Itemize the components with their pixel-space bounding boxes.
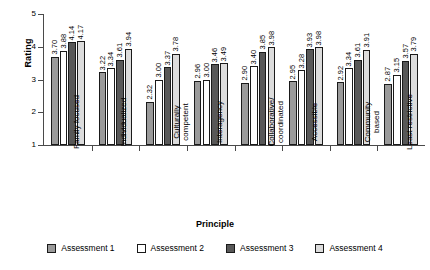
- bar-value-label: 3.49: [219, 47, 227, 62]
- bar-value-label: 3.61: [354, 43, 362, 58]
- bar-value-label: 3.94: [124, 32, 132, 47]
- bar-value-label: 3.85: [258, 35, 266, 50]
- legend-label: Assessment 4: [329, 244, 382, 253]
- bar[interactable]: [384, 84, 392, 145]
- y-tick-label: 2: [24, 108, 36, 116]
- bar-group: 2.953.283.933.98: [282, 14, 330, 145]
- bar[interactable]: [337, 82, 345, 145]
- bar[interactable]: [194, 81, 202, 145]
- bar-value-label: 3.00: [202, 63, 210, 78]
- bar-value-label: 2.32: [146, 85, 154, 100]
- bar[interactable]: [289, 81, 297, 145]
- bar[interactable]: [107, 68, 115, 145]
- y-tick-mark: [38, 14, 43, 15]
- bar[interactable]: [298, 70, 306, 145]
- bar-value-label: 3.15: [393, 58, 401, 73]
- bar-value-label: 3.34: [345, 52, 353, 67]
- legend-swatch: [315, 244, 324, 253]
- y-tick-label: 3: [24, 76, 36, 84]
- bar[interactable]: [241, 83, 249, 145]
- bar-value-label: 2.87: [384, 67, 392, 82]
- bar-value-label: 3.98: [315, 31, 323, 46]
- legend-item[interactable]: Assessment 4: [315, 244, 382, 253]
- bar-value-label: 3.40: [250, 50, 258, 65]
- bar-value-label: 3.78: [172, 37, 180, 52]
- legend-label: Assessment 1: [61, 244, 114, 253]
- bar-value-label: 3.79: [410, 37, 418, 52]
- bar[interactable]: [345, 68, 353, 145]
- bar-value-label: 2.96: [193, 64, 201, 79]
- bar-group: 3.223.343.613.94: [92, 14, 140, 145]
- y-tick-label: 5: [24, 10, 36, 18]
- x-category-label: Family focused: [72, 91, 81, 153]
- bar-value-label: 3.91: [362, 33, 370, 48]
- bar-value-label: 3.22: [98, 56, 106, 71]
- bar[interactable]: [250, 66, 258, 145]
- bar-value-label: 4.17: [77, 25, 85, 40]
- legend-swatch: [226, 244, 235, 253]
- bar-value-label: 3.00: [154, 63, 162, 78]
- bar-value-label: 3.28: [297, 54, 305, 69]
- bar[interactable]: [203, 80, 211, 146]
- bar[interactable]: [60, 51, 68, 145]
- legend-swatch: [137, 244, 146, 253]
- legend-label: Assessment 2: [151, 244, 204, 253]
- y-tick-label: 1: [24, 141, 36, 149]
- y-tick-mark: [38, 47, 43, 48]
- x-tick-mark: [92, 146, 93, 151]
- bar-group: 3.703.884.144.17: [44, 14, 92, 145]
- bar[interactable]: [354, 60, 362, 145]
- legend-item[interactable]: Assessment 3: [226, 244, 293, 253]
- bar-value-label: 3.34: [107, 52, 115, 67]
- bar-value-label: 2.90: [241, 66, 249, 81]
- x-category-label: Least restrictive: [405, 91, 414, 153]
- chart-root: Rating 12345 3.703.884.144.173.223.343.6…: [0, 0, 430, 270]
- x-category-label: Individualized: [119, 91, 128, 153]
- bar-value-label: 3.61: [115, 43, 123, 58]
- x-category-label: Communitybased: [363, 91, 381, 153]
- bar-value-label: 2.92: [336, 66, 344, 81]
- y-tick-label: 4: [24, 43, 36, 51]
- bar-value-label: 4.14: [68, 26, 76, 41]
- bar-group: 2.963.003.463.49: [187, 14, 235, 145]
- bar-value-label: 2.95: [289, 65, 297, 80]
- x-category-label: Accessible: [310, 91, 319, 153]
- bar[interactable]: [393, 75, 401, 145]
- y-tick-mark: [38, 112, 43, 113]
- bar-value-label: 3.70: [50, 40, 58, 55]
- bar[interactable]: [146, 102, 154, 145]
- x-category-label: Culturallycompetent: [172, 91, 190, 153]
- legend-item[interactable]: Assessment 2: [137, 244, 204, 253]
- legend-swatch: [47, 244, 56, 253]
- y-axis-title: Rating: [23, 23, 33, 83]
- x-tick-mark: [235, 146, 236, 151]
- bar[interactable]: [99, 72, 107, 145]
- x-category-label: Interagency: [215, 91, 224, 153]
- bar[interactable]: [259, 52, 267, 145]
- bar[interactable]: [51, 57, 59, 145]
- legend-item[interactable]: Assessment 1: [47, 244, 114, 253]
- bar-value-label: 3.93: [306, 32, 314, 47]
- x-tick-mark: [139, 146, 140, 151]
- bar-value-label: 3.98: [267, 31, 275, 46]
- x-axis-title: Principle: [0, 219, 430, 229]
- bar-group: 2.873.153.573.79: [377, 14, 425, 145]
- bar[interactable]: [164, 67, 172, 145]
- x-category-label: Collaborative/coordinated: [267, 91, 285, 153]
- chart-legend: Assessment 1Assessment 2Assessment 3Asse…: [0, 244, 430, 253]
- bar-value-label: 3.37: [163, 51, 171, 66]
- x-tick-mark: [330, 146, 331, 151]
- y-tick-mark: [38, 80, 43, 81]
- legend-label: Assessment 3: [240, 244, 293, 253]
- bar[interactable]: [155, 80, 163, 146]
- bar-value-label: 3.46: [211, 48, 219, 63]
